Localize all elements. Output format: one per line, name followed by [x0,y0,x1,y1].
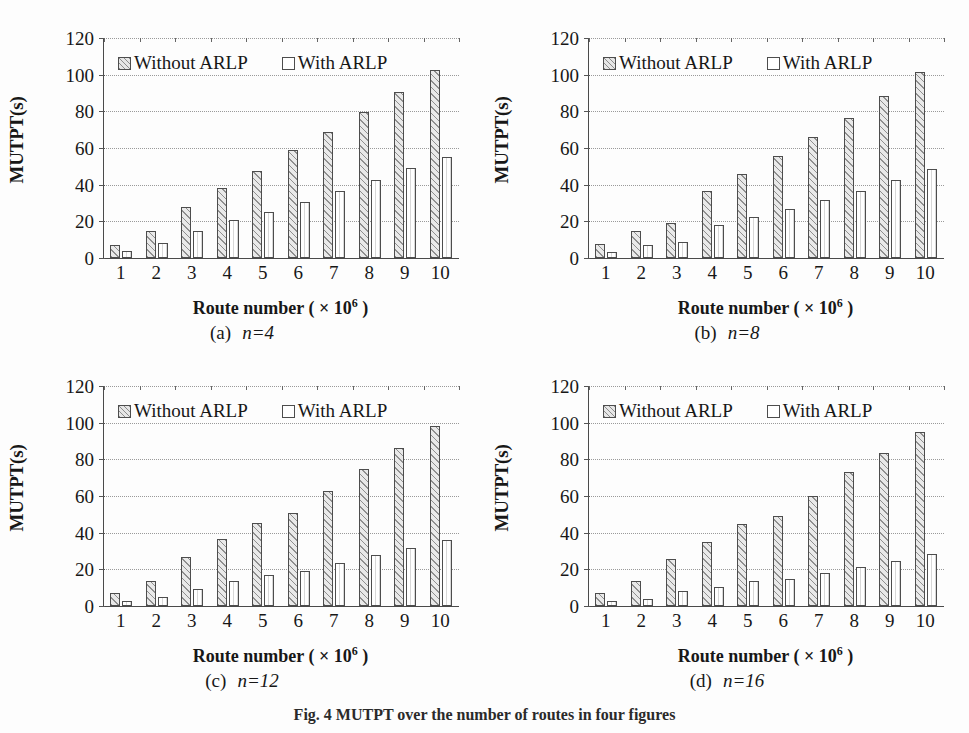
x-tick-label: 3 [187,262,197,284]
x-tick-label: 9 [885,262,895,284]
figure-caption: Fig. 4 MUTPT over the number of routes i… [0,706,969,724]
panel-caption-tag: (c) [205,670,226,691]
bar-with-arlp [406,168,416,258]
plot-wrap: MUTPT(s)020406080100120Without ARLPWith … [0,0,484,290]
legend-label: With ARLP [298,400,388,422]
bar-with-arlp [158,243,168,258]
x-tick-label: 7 [814,262,824,284]
axis-baseline [104,606,459,607]
bar-without-arlp [915,72,925,258]
bar-without-arlp [252,523,262,606]
legend-item: Without ARLP [603,400,733,422]
x-axis-title-close: ) [843,646,854,666]
bar-with-arlp [264,575,274,606]
open-square-swatch-icon [282,405,295,418]
panel-caption-n: n=8 [728,322,760,343]
bar-without-arlp [595,593,605,606]
bar-with-arlp [749,217,759,258]
x-tick-label: 3 [187,610,197,632]
x-tick-mark [944,386,945,390]
bar-with-arlp [785,579,795,606]
bar-without-arlp [808,137,818,258]
y-tick-mark [584,258,590,259]
bar-without-arlp [702,191,712,258]
figure-mutpt-route-number: MUTPT(s)020406080100120Without ARLPWith … [0,0,969,733]
y-tick-label: 80 [560,102,579,121]
y-tick-label: 100 [551,65,580,84]
bar-without-arlp [737,524,747,606]
y-tick-mark [99,606,105,607]
bar-without-arlp [879,96,889,258]
bar-group [873,386,909,606]
y-tick-label: 100 [66,65,95,84]
x-tick-label: 1 [116,610,126,632]
x-tick-label: 2 [152,262,162,284]
y-axis-title-label: MUTPT(s) [6,444,28,531]
x-axis-title: Route number ( × 106 ) [103,296,458,319]
bar-with-arlp [442,157,452,258]
y-tick-label: 80 [75,102,94,121]
diagonal-hatch-swatch-icon [118,57,131,70]
bar-without-arlp [879,453,889,606]
diagonal-hatch-swatch-icon [118,405,131,418]
x-tick-label: 10 [431,262,450,284]
x-axis-title-text: Route number ( × 10 [193,646,352,666]
legend-label: With ARLP [783,400,873,422]
y-tick-label: 100 [551,413,580,432]
y-tick-mark [584,606,590,607]
x-axis-title-close: ) [358,646,369,666]
y-axis-title-label: MUTPT(s) [6,96,28,183]
bar-with-arlp [643,599,653,606]
x-tick-mark [459,386,460,390]
x-tick-label: 1 [601,262,611,284]
chart-panel-n16: MUTPT(s)020406080100120Without ARLPWith … [485,348,969,696]
y-tick-label: 100 [66,413,95,432]
legend-label: Without ARLP [619,400,733,422]
bar-with-arlp [229,220,239,258]
legend-item: Without ARLP [118,52,248,74]
x-tick-label: 6 [779,262,789,284]
bar-without-arlp [110,593,120,606]
panel-caption-n: n=12 [237,670,278,691]
x-tick-label: 2 [637,610,647,632]
y-axis-title: MUTPT(s) [489,40,515,240]
y-tick-label: 120 [551,377,580,396]
legend-item: With ARLP [282,52,388,74]
x-tick-labels: 12345678910 [588,610,943,640]
y-tick-labels: 020406080100120 [30,376,98,608]
bar-without-arlp [666,559,676,606]
bar-with-arlp [406,548,416,606]
y-tick-label: 60 [75,139,94,158]
y-tick-label: 120 [66,377,95,396]
x-tick-label: 2 [637,262,647,284]
legend-label: Without ARLP [134,52,248,74]
bar-with-arlp [300,202,310,258]
legend-item: Without ARLP [603,52,733,74]
x-axis-title-close: ) [843,298,854,318]
bar-with-arlp [122,601,132,606]
chart-legend: Without ARLPWith ARLP [603,400,872,422]
bar-without-arlp [288,513,298,607]
panel-caption-n: n=4 [242,322,274,343]
x-tick-label: 4 [708,610,718,632]
bar-without-arlp [666,223,676,258]
y-axis-title: MUTPT(s) [489,388,515,588]
x-tick-label: 10 [916,262,935,284]
y-tick-labels: 020406080100120 [515,28,583,260]
diagonal-hatch-swatch-icon [603,405,616,418]
bar-with-arlp [335,191,345,258]
panel-caption: (b)n=8 [485,322,969,344]
y-axis-title: MUTPT(s) [4,388,30,588]
bar-with-arlp [820,200,830,258]
bar-group [909,386,945,606]
bar-with-arlp [643,245,653,258]
x-tick-label: 5 [258,262,268,284]
bar-without-arlp [323,491,333,607]
bar-without-arlp [217,539,227,606]
legend-item: With ARLP [282,400,388,422]
bar-without-arlp [288,150,298,258]
x-tick-label: 6 [294,262,304,284]
bar-with-arlp [229,581,239,606]
chart-legend: Without ARLPWith ARLP [118,52,387,74]
x-tick-labels: 12345678910 [103,262,458,292]
